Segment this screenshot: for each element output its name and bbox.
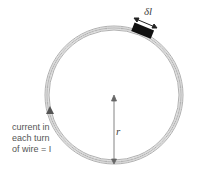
- coil-diagram: [0, 0, 201, 186]
- current-label-line2: each turn: [12, 133, 51, 144]
- element-length-label: δl: [144, 6, 152, 17]
- radius-label: r: [116, 126, 120, 137]
- current-label: current in each turn of wire = I: [12, 122, 51, 155]
- current-label-line1: current in: [12, 122, 51, 133]
- current-label-line3: of wire = I: [12, 144, 51, 155]
